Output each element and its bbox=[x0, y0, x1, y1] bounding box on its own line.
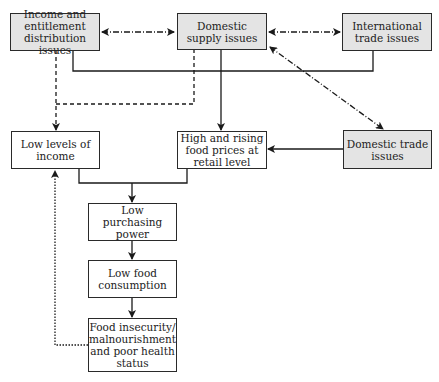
node-label: Low levels of income bbox=[14, 138, 97, 162]
node-label: Low food consumption bbox=[91, 267, 174, 291]
node-label: Income and entitlement distribution issu… bbox=[13, 8, 97, 56]
node-international-trade: International trade issues bbox=[342, 13, 432, 51]
edge-junction bbox=[79, 168, 187, 183]
node-label: Low purchasing power bbox=[91, 204, 174, 240]
edge-domestic-supply-low-income bbox=[56, 49, 194, 104]
node-low-food-consumption: Low food consumption bbox=[88, 260, 177, 298]
node-label: Food insecurity/ malnourishment and poor… bbox=[89, 321, 176, 369]
node-income-entitlement: Income and entitlement distribution issu… bbox=[10, 13, 100, 51]
node-label: Domestic supply issues bbox=[180, 20, 264, 44]
node-label: Domestic trade issues bbox=[346, 138, 429, 162]
connector-lines bbox=[0, 0, 439, 382]
node-high-prices: High and rising food prices at retail le… bbox=[177, 131, 267, 169]
node-label: International trade issues bbox=[345, 20, 429, 44]
node-label: High and rising food prices at retail le… bbox=[180, 132, 264, 168]
node-domestic-trade: Domestic trade issues bbox=[343, 130, 432, 169]
edge-income-international bbox=[73, 50, 373, 71]
edge-domestic-supply-domestic-trade bbox=[270, 47, 383, 129]
node-low-income: Low levels of income bbox=[11, 131, 100, 169]
node-domestic-supply: Domestic supply issues bbox=[177, 13, 267, 50]
edge-food-insecurity-low-income bbox=[55, 171, 88, 345]
node-low-purchasing-power: Low purchasing power bbox=[88, 203, 177, 241]
food-insecurity-diagram: Income and entitlement distribution issu… bbox=[0, 0, 439, 382]
node-food-insecurity: Food insecurity/ malnourishment and poor… bbox=[88, 318, 177, 372]
